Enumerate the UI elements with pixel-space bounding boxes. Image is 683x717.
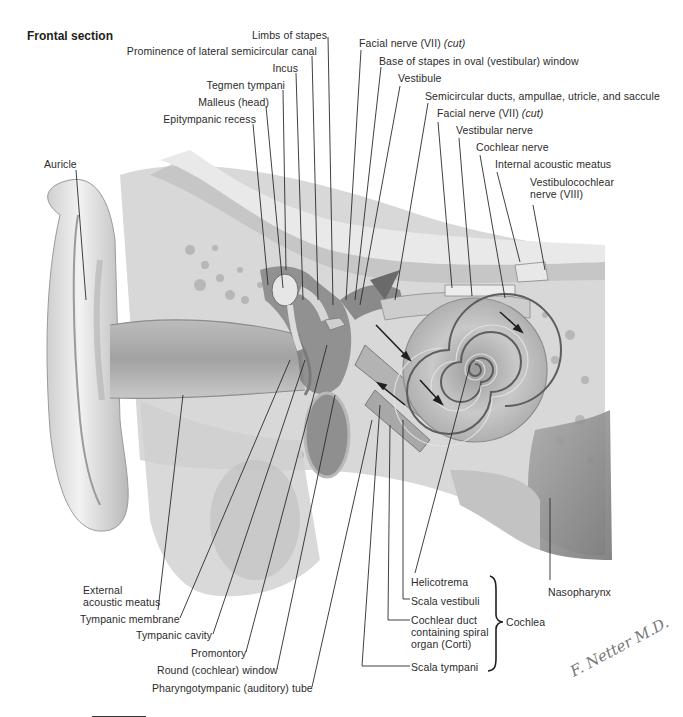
label-tegmen-tympani: Tegmen tympani	[207, 79, 285, 91]
label-internal-acoustic-meatus: Internal acoustic meatus	[495, 158, 611, 170]
label-epitympanic-recess: Epitympanic recess	[163, 113, 256, 125]
label-semicircular-ducts: Semicircular ducts, ampullae, utricle, a…	[425, 90, 660, 102]
label-vestibulocochlear-nerve: Vestibulocochlear nerve (VIII)	[530, 176, 614, 200]
label-helicotrema: Helicotrema	[411, 576, 468, 588]
figure-title: Frontal section	[27, 29, 113, 43]
label-malleus-head: Malleus (head)	[198, 96, 269, 108]
label-external-acoustic-meatus: External acoustic meatus	[83, 584, 160, 608]
label-prominence-lateral-semicircular-canal: Prominence of lateral semicircular canal	[127, 45, 317, 57]
label-cochlea: Cochlea	[506, 616, 545, 628]
ear-frontal-section-diagram: Frontal section Limbs of stapes Prominen…	[0, 0, 683, 717]
label-tympanic-membrane: Tympanic membrane	[80, 613, 180, 625]
label-limbs-of-stapes: Limbs of stapes	[252, 29, 327, 41]
label-vestibule: Vestibule	[398, 72, 442, 84]
label-tympanic-cavity: Tympanic cavity	[136, 629, 212, 641]
label-pharyngotympanic-tube: Pharyngotympanic (auditory) tube	[152, 682, 313, 694]
label-scala-tympani: Scala tympani	[411, 661, 478, 673]
label-facial-nerve-cut-1: Facial nerve (VII) (cut)	[359, 37, 465, 49]
label-round-window: Round (cochlear) window	[157, 664, 278, 676]
label-nasopharynx: Nasopharynx	[548, 586, 611, 598]
label-facial-nerve-cut-2: Facial nerve (VII) (cut)	[437, 107, 543, 119]
label-auricle: Auricle	[44, 158, 77, 170]
label-vestibular-nerve: Vestibular nerve	[456, 124, 533, 136]
label-scala-vestibuli: Scala vestibuli	[411, 595, 480, 607]
label-cochlear-duct: Cochlear duct containing spiral organ (C…	[411, 614, 489, 650]
cochlea-brace	[488, 576, 503, 671]
label-incus: Incus	[272, 62, 298, 74]
label-base-of-stapes: Base of stapes in oval (vestibular) wind…	[379, 55, 579, 67]
anatomy-illustration	[0, 0, 683, 717]
label-cochlear-nerve: Cochlear nerve	[476, 141, 549, 153]
label-promontory: Promontory	[191, 647, 246, 659]
